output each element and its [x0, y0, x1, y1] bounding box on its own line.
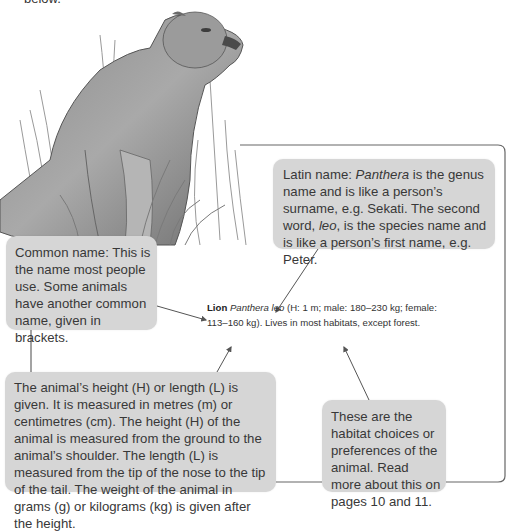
- habitat-callout-text: These are the habitat choices or prefere…: [331, 409, 440, 509]
- species-entry: Lion Panthera leo (H: 1 m; male: 180–230…: [207, 300, 507, 330]
- common-name-callout: Common name: This is the name most peopl…: [6, 236, 157, 330]
- common-callout-text: Common name: This is the name most peopl…: [15, 245, 150, 345]
- entry-common-name: Lion: [207, 302, 227, 313]
- latin-callout-species: leo: [319, 218, 337, 233]
- latin-callout-genus: Panthera: [356, 167, 410, 182]
- measurement-callout: The animal’s height (H) or length (L) is…: [5, 372, 276, 492]
- latin-callout-prefix: Latin name:: [283, 167, 356, 182]
- entry-details-line2: 113–160 kg). Lives in most habitats, exc…: [207, 317, 420, 328]
- lion-illustration: [0, 0, 250, 250]
- entry-details-line1: (H: 1 m; male: 180–230 kg; female:: [284, 302, 437, 313]
- habitat-callout: These are the habitat choices or prefere…: [322, 400, 446, 492]
- latin-name-callout: Latin name: Panthera is the genus name a…: [273, 159, 495, 249]
- entry-latin-name: Panthera leo: [230, 302, 284, 313]
- measure-callout-text: The animal’s height (H) or length (L) is…: [14, 380, 265, 531]
